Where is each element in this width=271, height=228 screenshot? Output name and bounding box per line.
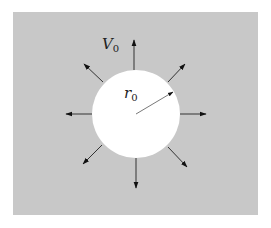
expanding-sphere-diagram: V0 r0 [0,0,271,228]
